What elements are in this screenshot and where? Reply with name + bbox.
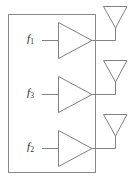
channel-2-group	[42, 61, 127, 113]
channel-1-signal-subscript: 1	[30, 37, 34, 46]
diagram-canvas: f1 f3 f2	[0, 0, 130, 184]
channel-2-signal-label: f3	[27, 87, 34, 99]
channel-3-signal-label: f2	[27, 141, 34, 153]
channel-3-antenna-icon	[104, 115, 128, 137]
channel-3-group	[42, 115, 127, 167]
channel-2-signal-subscript: 3	[30, 91, 34, 100]
channel-1-signal-label: f1	[27, 33, 34, 45]
channel-1-antenna-icon	[104, 7, 128, 29]
channel-3-signal-subscript: 2	[30, 145, 34, 154]
block-diagram-svg	[0, 0, 130, 184]
channel-2-antenna-icon	[104, 61, 128, 83]
channel-1-amplifier-icon	[59, 23, 93, 59]
channel-2-amplifier-icon	[59, 77, 93, 113]
channel-3-amplifier-icon	[59, 131, 93, 167]
